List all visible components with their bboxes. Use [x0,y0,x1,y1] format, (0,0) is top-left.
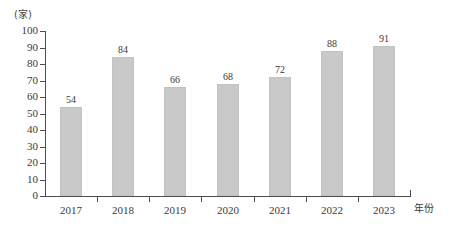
bar-chart: (家) 100908070605040302010054201784201866… [0,0,451,231]
x-axis-tick [201,197,202,202]
y-axis-tick-label: 50 [27,108,38,119]
y-axis-tick [40,196,45,197]
y-axis-tick [40,97,45,98]
bar[interactable] [321,51,343,196]
x-axis-category-label: 2022 [321,204,343,216]
x-axis-tick [254,197,255,202]
y-axis-tick [40,64,45,65]
bar-value-label: 66 [170,74,180,85]
y-axis-tick [40,147,45,148]
bar[interactable] [217,84,239,196]
bar-value-label: 84 [118,44,128,55]
y-axis-tick-label: 10 [27,174,38,185]
y-axis-tick [40,163,45,164]
y-axis-tick-label: 100 [22,25,39,36]
y-axis-tick-label: 20 [27,157,38,168]
x-axis-category-label: 2018 [112,204,134,216]
bar-value-label: 88 [327,38,337,49]
x-axis-category-label: 2021 [269,204,291,216]
x-axis-category-label: 2020 [217,204,239,216]
x-axis-tick [149,197,150,202]
y-axis-unit-label: (家) [14,9,32,21]
y-axis-tick-label: 60 [27,91,38,102]
bar-value-label: 72 [275,64,285,75]
y-axis-tick [40,48,45,49]
y-axis-tick-label: 80 [27,58,38,69]
y-axis-tick [40,114,45,115]
bar-value-label: 54 [66,94,76,105]
bar[interactable] [164,87,186,196]
x-axis-title: 年份 [414,203,434,215]
y-axis-tick-label: 30 [27,141,38,152]
x-axis-tick [306,197,307,202]
x-axis-category-label: 2023 [373,204,395,216]
y-axis-tick [40,81,45,82]
y-axis-tick-label: 0 [33,190,39,201]
x-axis-tick [358,197,359,202]
x-axis-category-label: 2017 [60,204,82,216]
bar[interactable] [373,46,395,196]
x-axis-tick [97,197,98,202]
bar-value-label: 91 [379,33,389,44]
x-axis-end-cap [410,190,411,197]
y-axis-tick-label: 90 [27,42,38,53]
bar[interactable] [60,107,82,196]
bar[interactable] [112,57,134,196]
bar-value-label: 68 [223,71,233,82]
y-axis-tick-label: 40 [27,124,38,135]
x-axis-line [45,196,411,197]
bar[interactable] [269,77,291,196]
y-axis-tick [40,180,45,181]
x-axis-category-label: 2019 [164,204,186,216]
y-axis-line [45,31,46,197]
y-axis-tick [40,130,45,131]
y-axis-tick-label: 70 [27,75,38,86]
y-axis-tick [40,31,45,32]
